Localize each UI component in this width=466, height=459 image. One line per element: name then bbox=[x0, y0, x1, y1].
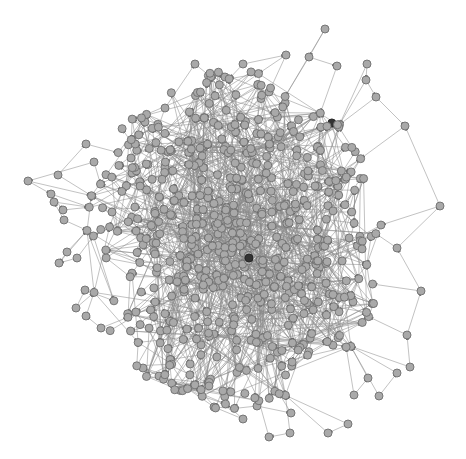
graph-node bbox=[288, 358, 296, 366]
graph-node bbox=[113, 227, 121, 235]
graph-node bbox=[324, 236, 332, 244]
graph-node bbox=[165, 276, 173, 284]
graph-node bbox=[196, 191, 204, 199]
graph-node bbox=[205, 234, 213, 242]
graph-node bbox=[252, 330, 260, 338]
graph-node bbox=[197, 351, 205, 359]
graph-node bbox=[363, 308, 371, 316]
graph-node bbox=[219, 387, 227, 395]
graph-edge bbox=[373, 284, 421, 291]
graph-node bbox=[357, 155, 365, 163]
graph-node bbox=[264, 161, 272, 169]
graph-node bbox=[118, 187, 126, 195]
graph-node bbox=[282, 371, 290, 379]
graph-node bbox=[83, 226, 91, 234]
graph-node bbox=[108, 208, 116, 216]
graph-node bbox=[263, 332, 271, 340]
graph-node bbox=[230, 209, 238, 217]
graph-node bbox=[372, 93, 380, 101]
graph-node bbox=[73, 254, 81, 262]
graph-node bbox=[290, 127, 298, 135]
graph-node bbox=[370, 299, 378, 307]
graph-node bbox=[137, 114, 145, 122]
graph-node bbox=[233, 346, 241, 354]
graph-node bbox=[236, 242, 244, 250]
graph-node bbox=[133, 362, 141, 370]
graph-node bbox=[256, 187, 264, 195]
graph-node bbox=[282, 243, 290, 251]
graph-node bbox=[332, 177, 340, 185]
graph-edge bbox=[285, 57, 309, 97]
graph-node bbox=[239, 60, 247, 68]
graph-node bbox=[232, 91, 240, 99]
graph-node bbox=[180, 285, 188, 293]
graph-node bbox=[294, 235, 302, 243]
graph-node bbox=[173, 278, 181, 286]
graph-node bbox=[271, 256, 279, 264]
graph-node bbox=[252, 240, 260, 248]
graph-node bbox=[344, 420, 352, 428]
graph-node bbox=[333, 62, 341, 70]
graph-node bbox=[179, 335, 187, 343]
graph-node bbox=[133, 248, 141, 256]
graph-node bbox=[286, 305, 294, 313]
graph-node bbox=[197, 386, 205, 394]
graph-node bbox=[265, 394, 273, 402]
graph-node bbox=[152, 139, 160, 147]
graph-node bbox=[97, 324, 105, 332]
graph-node bbox=[268, 222, 276, 230]
graph-node bbox=[254, 115, 262, 123]
graph-edge bbox=[86, 144, 118, 153]
graph-node bbox=[96, 180, 104, 188]
graph-node bbox=[358, 237, 366, 245]
graph-node bbox=[59, 206, 67, 214]
graph-node bbox=[258, 268, 266, 276]
graph-node bbox=[205, 382, 213, 390]
graph-node bbox=[262, 169, 270, 177]
graph-edge bbox=[340, 97, 376, 125]
graph-node bbox=[158, 175, 166, 183]
graph-edge bbox=[405, 126, 440, 206]
graph-node bbox=[167, 89, 175, 97]
graph-node bbox=[214, 121, 222, 129]
graph-node bbox=[372, 230, 380, 238]
graph-edge bbox=[376, 97, 405, 126]
graph-node bbox=[193, 335, 201, 343]
graph-node bbox=[160, 205, 168, 213]
graph-node bbox=[145, 324, 153, 332]
graph-node bbox=[342, 277, 350, 285]
graph-node bbox=[241, 389, 249, 397]
graph-node bbox=[254, 364, 262, 372]
graph-node bbox=[170, 185, 178, 193]
graph-node bbox=[335, 191, 343, 199]
graph-node bbox=[87, 192, 95, 200]
graph-node bbox=[270, 283, 278, 291]
graph-node bbox=[314, 298, 322, 306]
graph-node bbox=[281, 93, 289, 101]
graph-node bbox=[231, 260, 239, 268]
graph-node bbox=[314, 235, 322, 243]
graph-node bbox=[313, 270, 321, 278]
graph-node bbox=[253, 160, 261, 168]
graph-node bbox=[24, 177, 32, 185]
graph-node bbox=[233, 174, 241, 182]
graph-node bbox=[257, 130, 265, 138]
graph-node bbox=[210, 199, 218, 207]
graph-node bbox=[294, 346, 302, 354]
graph-node bbox=[157, 146, 165, 154]
graph-node bbox=[329, 207, 337, 215]
graph-node bbox=[183, 263, 191, 271]
graph-node bbox=[153, 264, 161, 272]
graph-edge bbox=[285, 395, 348, 424]
network-graph-canvas bbox=[0, 0, 466, 459]
graph-node bbox=[333, 121, 341, 129]
graph-node bbox=[97, 225, 105, 233]
graph-node bbox=[191, 294, 199, 302]
graph-node bbox=[277, 272, 285, 280]
graph-node bbox=[180, 234, 188, 242]
graph-node bbox=[363, 60, 371, 68]
graph-node bbox=[303, 202, 311, 210]
graph-node bbox=[128, 164, 136, 172]
graph-node bbox=[156, 339, 164, 347]
graph-node bbox=[151, 250, 159, 258]
